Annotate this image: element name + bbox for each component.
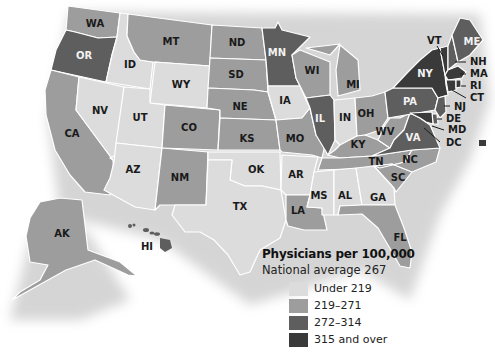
legend-item: 219–271 <box>289 297 492 314</box>
legend-item: Under 219 <box>289 280 492 297</box>
legend-label: 315 and over <box>314 333 387 346</box>
svg-text:WA: WA <box>86 18 105 29</box>
svg-text:SC: SC <box>391 172 406 183</box>
state-RI[interactable] <box>456 80 461 88</box>
svg-text:FL: FL <box>393 232 407 243</box>
legend-swatch <box>289 333 308 347</box>
svg-text:OH: OH <box>358 108 375 119</box>
svg-text:OK: OK <box>248 164 266 175</box>
legend-label: Under 219 <box>314 282 372 295</box>
legend-label: 272–314 <box>314 316 362 329</box>
svg-text:ND: ND <box>229 37 246 48</box>
legend-subtitle: National average 267 <box>262 262 492 278</box>
svg-text:AZ: AZ <box>126 164 141 175</box>
svg-text:AR: AR <box>288 169 304 180</box>
svg-text:UT: UT <box>133 112 148 123</box>
legend-title: Physicians per 100,000 <box>262 247 492 262</box>
svg-text:HI: HI <box>141 241 153 252</box>
svg-text:CA: CA <box>64 128 79 139</box>
svg-text:VA: VA <box>406 132 421 143</box>
svg-text:RI: RI <box>470 80 481 91</box>
svg-text:NH: NH <box>470 56 487 67</box>
svg-text:PA: PA <box>403 96 417 107</box>
svg-text:NY: NY <box>417 68 433 79</box>
svg-text:DE: DE <box>446 113 461 124</box>
svg-text:MT: MT <box>163 36 180 47</box>
svg-text:ME: ME <box>464 36 481 47</box>
svg-text:TN: TN <box>368 156 383 167</box>
svg-text:NJ: NJ <box>454 101 466 112</box>
svg-text:IN: IN <box>339 112 351 123</box>
svg-text:WY: WY <box>172 79 191 90</box>
legend-swatch <box>289 282 308 296</box>
svg-text:ID: ID <box>124 59 136 70</box>
map-legend: Physicians per 100,000 National average … <box>262 247 492 348</box>
svg-text:WV: WV <box>376 126 395 137</box>
svg-text:WI: WI <box>305 65 320 76</box>
svg-text:NV: NV <box>92 105 108 116</box>
state-DC-marker[interactable] <box>479 140 486 146</box>
state-CT[interactable] <box>446 80 456 92</box>
svg-text:SD: SD <box>228 69 244 80</box>
svg-text:TX: TX <box>233 201 248 212</box>
svg-text:MO: MO <box>286 133 304 144</box>
svg-text:MI: MI <box>346 79 360 90</box>
svg-text:KS: KS <box>240 133 255 144</box>
svg-text:MA: MA <box>470 68 488 79</box>
legend-swatch <box>289 316 308 330</box>
svg-text:IA: IA <box>279 95 291 106</box>
svg-text:OR: OR <box>76 50 93 61</box>
svg-text:DC: DC <box>446 137 462 148</box>
legend-swatch <box>289 299 308 313</box>
svg-text:LA: LA <box>291 205 305 216</box>
svg-text:CO: CO <box>181 122 197 133</box>
svg-text:NE: NE <box>232 101 247 112</box>
legend-item: 272–314 <box>289 314 492 331</box>
svg-text:NC: NC <box>402 154 418 165</box>
svg-text:VT: VT <box>427 35 442 46</box>
svg-text:MD: MD <box>448 124 466 135</box>
legend-item: 315 and over <box>289 331 492 348</box>
svg-text:MN: MN <box>268 47 286 58</box>
svg-text:CT: CT <box>470 92 484 103</box>
svg-text:IL: IL <box>315 113 326 124</box>
svg-text:AK: AK <box>54 228 71 239</box>
svg-text:MS: MS <box>310 190 327 201</box>
legend-label: 219–271 <box>314 299 362 312</box>
svg-text:KY: KY <box>351 139 367 150</box>
svg-text:AL: AL <box>338 190 353 201</box>
svg-text:NM: NM <box>171 172 189 183</box>
svg-text:GA: GA <box>370 192 386 203</box>
